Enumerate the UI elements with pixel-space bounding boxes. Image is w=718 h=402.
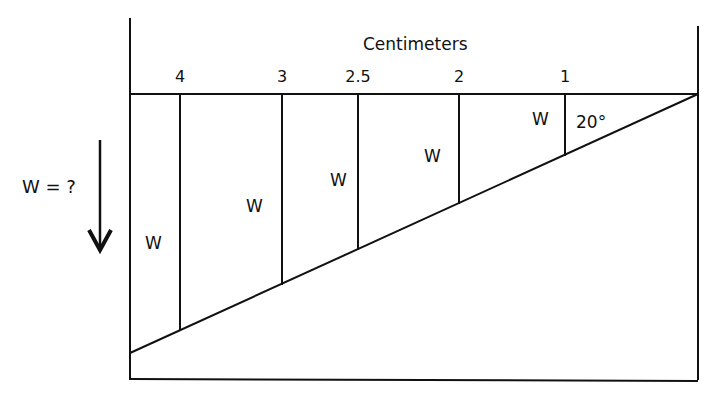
tick-label-2: 2 [454,69,464,85]
angle-label: 20° [576,114,606,131]
tick-label-4: 4 [175,69,185,85]
tick-label-3: 3 [277,69,287,85]
tick-label-1: 1 [560,69,570,85]
weight-label-1cm: W [532,111,549,128]
incline-line [130,94,698,353]
bottom-line [130,379,698,381]
weight-label-2.5cm: W [330,172,347,189]
weight-label-4cm: W [145,235,162,252]
down-arrow-icon [89,140,111,250]
diagram-lines [0,0,718,402]
tick-label-2.5: 2.5 [345,69,370,85]
weight-label-3cm: W [246,198,263,215]
unknown-weight-label: W = ? [22,178,76,196]
axis-title: Centimeters [363,36,467,53]
weight-label-2cm: W [424,148,441,165]
